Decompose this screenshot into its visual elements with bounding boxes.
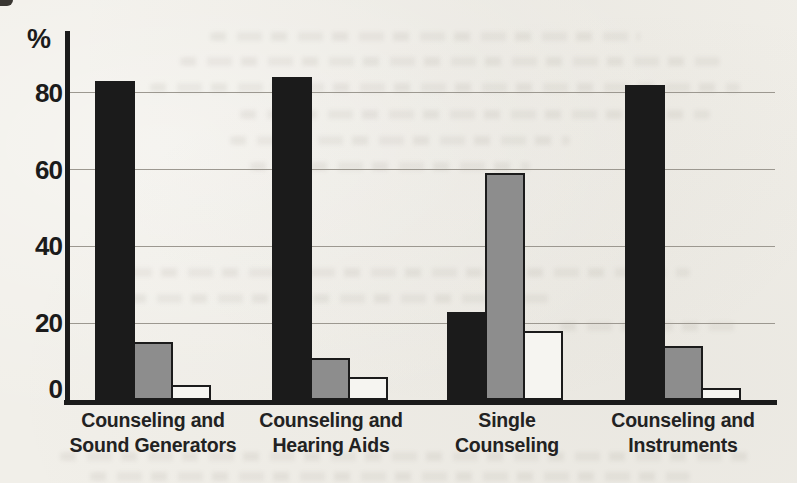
plot-area: 020406080 — [70, 16, 775, 400]
bar-group — [272, 77, 388, 400]
x-category-label-line: Single — [407, 408, 607, 433]
bar-gray — [485, 173, 525, 400]
bar-white — [171, 385, 211, 400]
bar-gray — [310, 358, 350, 400]
x-category-label-line: Counseling and — [53, 408, 253, 433]
y-tick-label: 20 — [12, 310, 62, 336]
y-tick-label: 80 — [12, 80, 62, 106]
bar-gray — [133, 342, 173, 400]
x-category-label: Counseling andSound Generators — [53, 408, 253, 458]
bar-white — [701, 388, 741, 400]
y-tick-label: 60 — [12, 157, 62, 183]
bar-black — [272, 77, 312, 400]
x-category-label-line: Sound Generators — [53, 433, 253, 458]
bar-group — [447, 173, 563, 400]
x-category-label-line: Counseling and — [583, 408, 783, 433]
bar-black — [625, 85, 665, 400]
bar-group — [625, 85, 741, 400]
scanned-page: % 020406080 Counseling andSound Generato… — [0, 0, 797, 483]
bar-black — [447, 312, 487, 400]
x-category-label-line: Hearing Aids — [231, 433, 431, 458]
x-category-label-line: Instruments — [583, 433, 783, 458]
y-axis-unit-label: % — [22, 24, 56, 55]
x-category-label-line: Counseling and — [231, 408, 431, 433]
y-tick-label: 0 — [12, 376, 62, 402]
y-tick-label: 40 — [12, 233, 62, 259]
bleed-text-artifact — [90, 472, 690, 481]
scan-artifact — [0, 0, 13, 6]
bar-black — [95, 81, 135, 400]
bar-white — [348, 377, 388, 400]
bar-gray — [663, 346, 703, 400]
x-category-label: Counseling andInstruments — [583, 408, 783, 458]
x-axis-line — [64, 400, 777, 405]
bar-white — [523, 331, 563, 400]
x-category-label-line: Counseling — [407, 433, 607, 458]
x-category-label: SingleCounseling — [407, 408, 607, 458]
bar-group — [95, 81, 211, 400]
x-category-label: Counseling andHearing Aids — [231, 408, 431, 458]
